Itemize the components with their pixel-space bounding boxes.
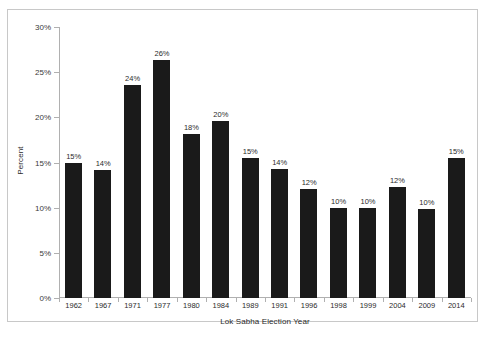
x-axis-tick-labels: 1962196719711977198019841989199119961998…	[59, 301, 471, 315]
bar-slot: 10%	[353, 27, 382, 298]
bar-value-label: 14%	[88, 159, 117, 168]
bar-value-label: 14%	[265, 158, 294, 167]
x-axis-tick-label: 1967	[88, 301, 117, 310]
bar-value-label: 15%	[442, 147, 471, 156]
bar-value-label: 26%	[147, 49, 176, 58]
bar-value-label: 10%	[324, 197, 353, 206]
bar-slot: 15%	[236, 27, 265, 298]
y-axis-tick-label: 25%	[35, 68, 51, 77]
bar-value-label: 18%	[177, 123, 206, 132]
bar-slot: 14%	[88, 27, 117, 298]
bar-slot: 18%	[177, 27, 206, 298]
x-axis-tick-label: 1962	[59, 301, 88, 310]
x-axis-tick-label: 2014	[442, 301, 471, 310]
x-axis-tick-label: 1984	[206, 301, 235, 310]
x-axis-tick-label: 1991	[265, 301, 294, 310]
bar-value-label: 24%	[118, 74, 147, 83]
x-axis-tick-label: 1989	[236, 301, 265, 310]
bar[interactable]	[94, 170, 111, 298]
bar[interactable]	[389, 187, 406, 298]
x-axis-tick-label: 1971	[118, 301, 147, 310]
bar[interactable]	[300, 189, 317, 298]
bar[interactable]	[242, 158, 259, 298]
y-axis-tick-label: 10%	[35, 203, 51, 212]
y-axis-tick-label: 15%	[35, 158, 51, 167]
y-axis-tick-label: 30%	[35, 23, 51, 32]
bar-slot: 15%	[59, 27, 88, 298]
x-axis-tick-label: 2004	[383, 301, 412, 310]
bar-value-label: 12%	[294, 178, 323, 187]
bar-slot: 10%	[412, 27, 441, 298]
bar[interactable]	[271, 169, 288, 298]
bar-value-label: 10%	[353, 197, 382, 206]
bar-slot: 24%	[118, 27, 147, 298]
bar-value-label: 20%	[206, 110, 235, 119]
bar-slot: 14%	[265, 27, 294, 298]
x-axis-tick-label: 1980	[177, 301, 206, 310]
x-axis-tick-label: 1999	[353, 301, 382, 310]
y-axis-tick-label: 0%	[39, 294, 51, 303]
x-axis-tick-label: 1977	[147, 301, 176, 310]
y-axis-title: Percent	[16, 131, 25, 191]
bar-slot: 26%	[147, 27, 176, 298]
bar-slot: 20%	[206, 27, 235, 298]
bar[interactable]	[65, 163, 82, 299]
bar-value-label: 12%	[383, 176, 412, 185]
x-axis-tick-label: 1998	[324, 301, 353, 310]
bar-slot: 12%	[383, 27, 412, 298]
chart-frame: Percent 0%5%10%15%20%25%30% 15%14%24%26%…	[7, 9, 478, 322]
bar-slot: 15%	[442, 27, 471, 298]
bar-slot: 10%	[324, 27, 353, 298]
x-axis-tick-mark	[471, 298, 472, 302]
bar-value-label: 15%	[236, 147, 265, 156]
bar-slot: 12%	[294, 27, 323, 298]
bar[interactable]	[418, 209, 435, 298]
bar-value-label: 15%	[59, 152, 88, 161]
x-axis-tick-label: 2009	[412, 301, 441, 310]
x-axis-title: Lok Sabha Election Year	[59, 317, 471, 326]
y-axis-tick-label: 5%	[39, 248, 51, 257]
plot-area: 0%5%10%15%20%25%30% 15%14%24%26%18%20%15…	[59, 27, 471, 298]
y-axis-tick-label: 20%	[35, 113, 51, 122]
bar[interactable]	[183, 134, 200, 298]
bar[interactable]	[330, 208, 347, 298]
bar[interactable]	[212, 121, 229, 298]
bar[interactable]	[359, 208, 376, 298]
bar[interactable]	[153, 60, 170, 298]
bar-value-label: 10%	[412, 198, 441, 207]
x-axis-tick-label: 1996	[294, 301, 323, 310]
bar[interactable]	[448, 158, 465, 298]
bars-layer: 15%14%24%26%18%20%15%14%12%10%10%12%10%1…	[59, 27, 471, 298]
bar[interactable]	[124, 85, 141, 298]
